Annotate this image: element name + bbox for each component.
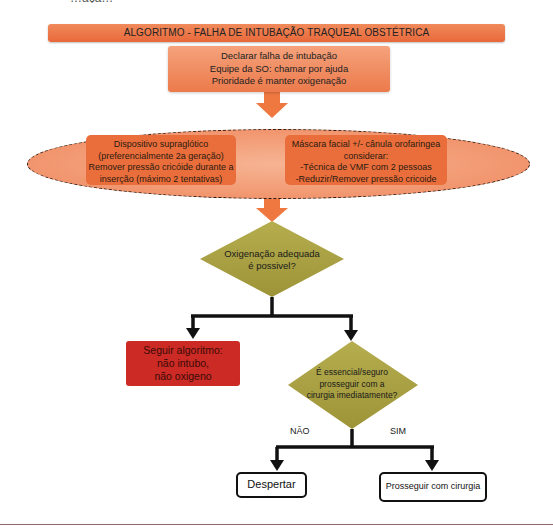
arrow-down-icon (186, 328, 200, 339)
decision-line: cirurgia imediatamente? (300, 390, 404, 402)
decision-line: é possivel? (212, 260, 332, 272)
bottom-divider (0, 524, 553, 525)
declare-line: Equipe da SO: chamar por ajuda (168, 63, 390, 76)
option-line: -Reduzir/Remover pressão cricoide (285, 174, 447, 186)
decision-line: Oxigenação adequada (212, 248, 332, 260)
branch-connector-1 (191, 297, 353, 331)
red-box-line: não intubo, (126, 357, 240, 370)
face-mask-box: Máscara facial +/- cânula orofaringea co… (285, 135, 447, 185)
no-branch-label: NÃO (290, 426, 310, 436)
red-box-line: não oxigeno (126, 370, 240, 383)
decision-line: prosseguir com a (300, 379, 404, 391)
arrow-down-icon (270, 460, 284, 471)
supraglottic-device-box: Dispositivo supraglótico (preferencialme… (86, 135, 236, 185)
decision-line: É essencial/seguro (300, 367, 404, 379)
wake-up-box: Despertar (236, 472, 307, 498)
algorithm-title: ALGORITMO - FALHA DE INTUBAÇÃO TRAQUEAL … (48, 24, 505, 42)
option-line: (preferencialmente 2a geração) (86, 151, 236, 163)
proceed-surgery-box: Prosseguir com cirurgia (379, 472, 487, 502)
option-line: Dispositivo supraglótico (86, 139, 236, 151)
cropped-heading-text: …açã… (70, 0, 190, 3)
option-line: Remover pressão cricóide durante a (86, 162, 236, 174)
arrow-down-icon (344, 330, 358, 341)
follow-cico-algorithm-box: Seguir algoritmo: não intubo, não oxigen… (126, 341, 240, 386)
declare-line: Prioridade é manter oxigenação (168, 75, 390, 88)
option-line: inserção (máximo 2 tentativas) (86, 174, 236, 186)
orange-arrow-down-icon (256, 199, 288, 222)
decision-2-label: É essencial/seguro prosseguir com a ciru… (300, 367, 404, 402)
option-line: considerar: (285, 151, 447, 163)
declare-failure-box: Declarar falha de intubação Equipe da SO… (168, 46, 390, 92)
red-box-line: Seguir algoritmo: (126, 344, 240, 357)
orange-arrow-down-icon (256, 92, 288, 118)
yes-branch-label: SIM (390, 426, 406, 436)
option-line: Máscara facial +/- cânula orofaringea (285, 139, 447, 151)
decision-1-label: Oxigenação adequada é possivel? (212, 248, 332, 272)
arrow-down-icon (425, 460, 439, 471)
declare-line: Declarar falha de intubação (168, 50, 390, 63)
option-line: -Técnica de VMF com 2 pessoas (285, 162, 447, 174)
